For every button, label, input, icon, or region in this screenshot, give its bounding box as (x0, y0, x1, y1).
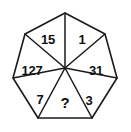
sector-label-bottom-center-unknown: ? (61, 94, 70, 111)
sector-label-left: 127 (22, 63, 43, 78)
sector-label-bottom-right: 3 (86, 93, 93, 108)
sector-label-right: 31 (89, 63, 103, 78)
heptagon-puzzle-figure: 15 1 31 3 ? 7 127 (0, 0, 131, 132)
heptagon-diagram: 15 1 31 3 ? 7 127 (0, 0, 131, 132)
sector-label-top-right: 1 (79, 32, 86, 47)
sector-label-bottom-left: 7 (37, 92, 44, 107)
sector-label-top-left: 15 (41, 32, 55, 47)
